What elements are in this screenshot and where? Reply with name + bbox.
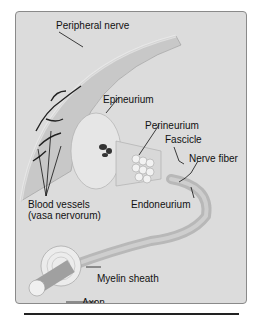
label-blood-vessels: Blood vessels <box>28 199 90 210</box>
diagram-panel: Peripheral nerve Epineurium Perineurium … <box>15 11 247 304</box>
divider-rule <box>24 313 239 315</box>
label-nerve-fiber: Nerve fiber <box>189 153 238 164</box>
label-perineurium: Perineurium <box>145 120 199 131</box>
label-axon: Axon <box>82 297 105 304</box>
label-fascicle: Fascicle <box>165 134 202 145</box>
label-vasa-nervorum: (vasa nervorum) <box>28 210 101 221</box>
label-myelin-sheath: Myelin sheath <box>97 273 159 284</box>
label-endoneurium: Endoneurium <box>131 199 190 210</box>
label-epineurium: Epineurium <box>103 94 154 105</box>
label-peripheral-nerve: Peripheral nerve <box>56 20 129 31</box>
